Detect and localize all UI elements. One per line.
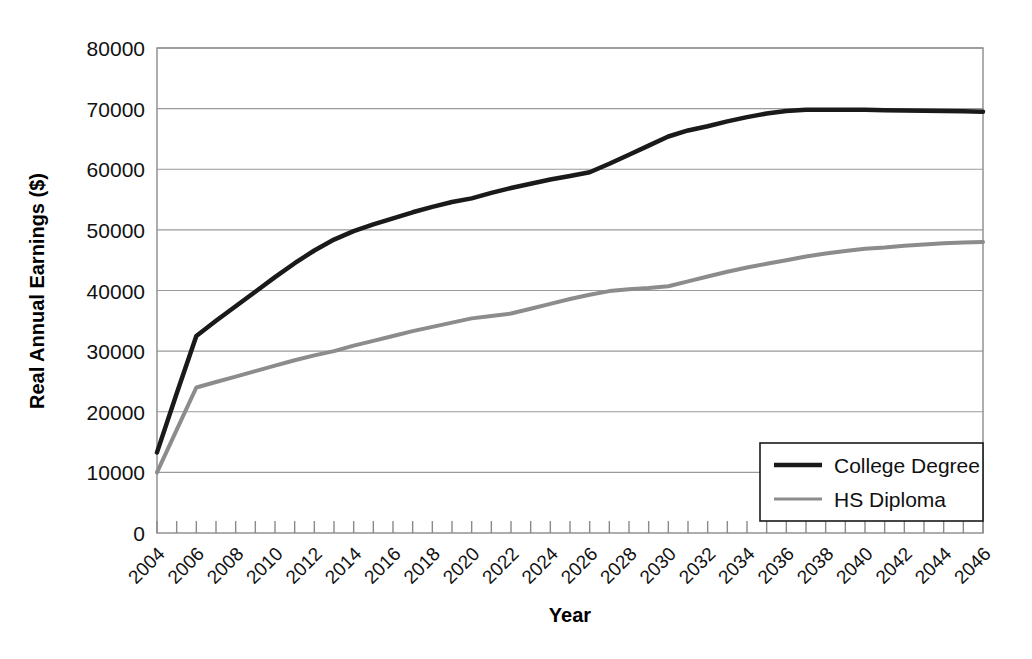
y-tick-label: 40000: [87, 280, 145, 303]
legend-label: College Degree: [834, 454, 980, 477]
chart-figure: 0100002000030000400005000060000700008000…: [0, 0, 1032, 659]
y-tick-labels: 0100002000030000400005000060000700008000…: [87, 37, 145, 545]
chart-legend: College DegreeHS Diploma: [760, 443, 983, 521]
y-tick-label: 60000: [87, 158, 145, 181]
y-tick-label: 10000: [87, 461, 145, 484]
y-tick-label: 80000: [87, 37, 145, 60]
y-tick-label: 50000: [87, 219, 145, 242]
y-tick-label: 70000: [87, 98, 145, 121]
x-axis-title: Year: [549, 604, 591, 626]
y-tick-label: 0: [133, 522, 145, 545]
legend-label: HS Diploma: [834, 488, 946, 511]
line-chart: 0100002000030000400005000060000700008000…: [0, 0, 1032, 659]
y-tick-label: 20000: [87, 401, 145, 424]
y-axis-title: Real Annual Earnings ($): [26, 173, 48, 409]
y-tick-label: 30000: [87, 340, 145, 363]
